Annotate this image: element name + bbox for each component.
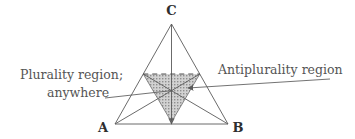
figure-root: A B C Plurality region; anywhere Antiplu… xyxy=(0,0,355,139)
antiplurality-leader-line xyxy=(188,79,330,88)
vertex-label-c: C xyxy=(166,3,176,18)
vertex-label-b: B xyxy=(233,120,244,135)
plurality-annotation-line2: anywhere xyxy=(47,85,109,100)
antiplurality-annotation-line1: Antiplurality region xyxy=(217,62,343,77)
plurality-annotation-line1: Plurality region; xyxy=(20,67,123,82)
vertex-label-a: A xyxy=(97,120,109,135)
representation-triangle-diagram: A B C Plurality region; anywhere Antiplu… xyxy=(0,0,355,139)
